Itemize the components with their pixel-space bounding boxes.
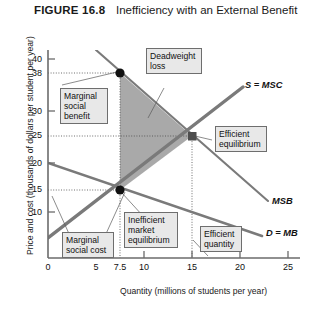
- x-tick-label-15: 15: [182, 262, 202, 272]
- x-axis-title: Quantity (millions of students per year): [120, 286, 267, 296]
- callout-deadweight-loss: Deadweight loss: [146, 48, 202, 74]
- x-tick-label-10: 10: [134, 262, 154, 272]
- point-msb-at-market-quantity: [115, 68, 124, 77]
- x-tick-label-20: 20: [230, 262, 250, 272]
- y-axis-title: Price and cost (thousands of dollars per…: [25, 55, 35, 255]
- curve-label-demand: D = MB: [266, 228, 298, 238]
- callout-marginal-social-benefit: Marginal social benefit: [60, 88, 108, 124]
- curve-label-supply: S = MSC: [245, 80, 282, 90]
- x-tick-label-0: 0: [38, 262, 58, 272]
- callout-efficient-equilibrium: Efficient equilibrium: [215, 126, 267, 152]
- callout-efficient-quantity: Efficient quantity: [200, 226, 242, 252]
- x-tick-label-25: 25: [278, 262, 298, 272]
- x-tick-label-5: 5: [86, 262, 106, 272]
- callout-marginal-social-cost: Marginal social cost: [62, 232, 114, 258]
- figure-container: FIGURE 16.8 Inefficiency with an Externa…: [0, 0, 320, 314]
- curve-label-msb: MSB: [272, 196, 293, 206]
- callout-inefficient-market-equilibrium: Inefficient market equilibrium: [124, 212, 178, 248]
- point-efficient-equilibrium: [188, 132, 197, 141]
- x-tick-label-7-5: 7.5: [108, 262, 132, 272]
- point-inefficient-market-equilibrium: [115, 185, 124, 194]
